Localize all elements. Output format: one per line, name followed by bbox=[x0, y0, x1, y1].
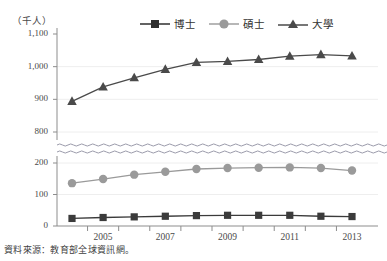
data-point-0 bbox=[100, 214, 107, 221]
data-point-1 bbox=[286, 163, 294, 171]
y-tick-label: 100 bbox=[6, 189, 48, 199]
data-point-0 bbox=[286, 212, 293, 219]
data-point-1 bbox=[223, 164, 231, 172]
x-tick-label: 2007 bbox=[140, 232, 190, 242]
data-point-1 bbox=[68, 179, 76, 187]
y-tick-label: 0 bbox=[6, 220, 48, 230]
axis-break-wave bbox=[57, 144, 387, 146]
data-point-1 bbox=[130, 170, 138, 178]
series-line-2 bbox=[72, 55, 352, 102]
data-point-1 bbox=[192, 165, 200, 173]
series-line-0 bbox=[72, 215, 352, 218]
y-tick-label: 900 bbox=[6, 93, 48, 103]
data-point-1 bbox=[254, 164, 262, 172]
source-note: 資料來源：教育部全球資訊網。 bbox=[4, 243, 134, 256]
chart-container: （千人） 博士 碩士 大學 1,1001,0009008002001000 20 bbox=[0, 0, 387, 261]
x-tick-label: 2009 bbox=[203, 232, 253, 242]
chart-plot-area bbox=[0, 0, 387, 261]
y-tick-label: 200 bbox=[6, 157, 48, 167]
y-tick-label: 1,100 bbox=[6, 28, 48, 38]
data-point-1 bbox=[99, 175, 107, 183]
data-point-2 bbox=[67, 96, 77, 105]
data-point-0 bbox=[317, 213, 324, 220]
data-point-2 bbox=[316, 50, 326, 59]
data-point-0 bbox=[255, 212, 262, 219]
x-tick-label: 2005 bbox=[78, 232, 128, 242]
data-point-0 bbox=[193, 212, 200, 219]
data-point-0 bbox=[162, 213, 169, 220]
data-point-0 bbox=[131, 213, 138, 220]
x-tick-label: 2013 bbox=[327, 232, 377, 242]
axis-break-wave bbox=[57, 151, 387, 153]
x-tick-label: 2011 bbox=[265, 232, 315, 242]
y-tick-label: 800 bbox=[6, 126, 48, 136]
data-point-1 bbox=[161, 168, 169, 176]
data-point-1 bbox=[348, 166, 356, 174]
data-point-0 bbox=[348, 213, 355, 220]
data-point-1 bbox=[317, 164, 325, 172]
data-point-0 bbox=[224, 212, 231, 219]
data-point-0 bbox=[68, 215, 75, 222]
y-tick-label: 1,000 bbox=[6, 61, 48, 71]
series-line-1 bbox=[72, 167, 352, 183]
